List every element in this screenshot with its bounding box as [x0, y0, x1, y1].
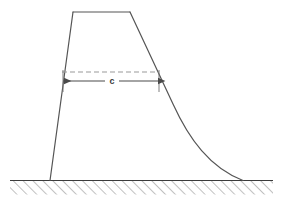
dam-upstream-face	[50, 12, 73, 181]
dam-diagram-svg: c	[0, 0, 287, 208]
dimension-label-c: c	[109, 76, 114, 86]
ground-hatching	[10, 181, 273, 195]
dam-cross-section-figure: c	[0, 0, 287, 208]
dam-downstream-face	[130, 12, 243, 181]
dam-body-outline	[50, 12, 243, 181]
